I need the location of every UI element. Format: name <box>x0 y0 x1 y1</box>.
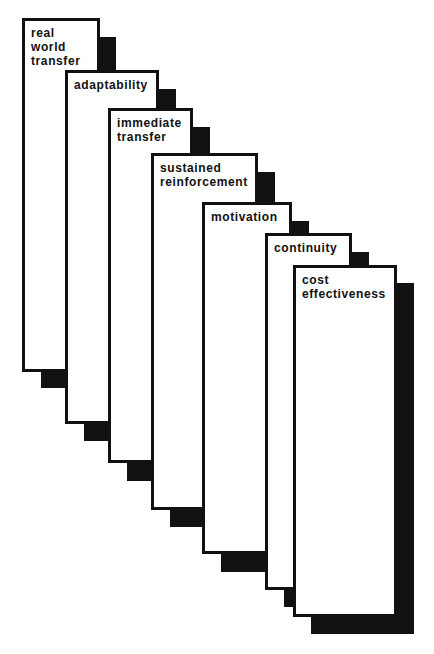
card-label: sustained reinforcement <box>160 161 248 189</box>
card-cost-effectiveness: cost effectiveness <box>293 265 397 617</box>
card-label: continuity <box>274 241 337 255</box>
staggered-card-diagram: real world transfer adaptability immedia… <box>0 0 434 654</box>
card-label: immediate transfer <box>117 116 182 144</box>
card-label: cost effectiveness <box>302 273 386 301</box>
card-label: motivation <box>211 210 278 224</box>
card-label: real world transfer <box>31 26 80 68</box>
card-label: adaptability <box>74 78 148 92</box>
